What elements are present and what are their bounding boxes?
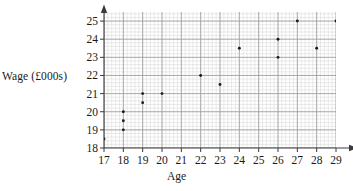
y-axis-tick-label: 25 (78, 15, 98, 27)
x-axis-tick-label: 17 (94, 154, 114, 166)
x-axis-tick-label: 23 (210, 154, 230, 166)
x-axis-tick-label: 21 (171, 154, 191, 166)
x-axis-tick-label: 28 (307, 154, 327, 166)
x-axis-tick-label: 29 (326, 154, 346, 166)
x-axis-tick-label: 25 (249, 154, 269, 166)
axes-layer (88, 4, 353, 160)
x-axis-tick-label: 20 (152, 154, 172, 166)
y-axis-tick-label: 19 (78, 124, 98, 136)
y-axis-tick-label: 22 (78, 69, 98, 81)
x-axis-tick-label: 22 (191, 154, 211, 166)
y-axis-tick-label: 23 (78, 51, 98, 63)
y-axis-tick-label: 20 (78, 106, 98, 118)
scatter-plot-figure: Wage (£000s) 1819202122232425 1718192021… (0, 0, 353, 191)
y-axis-tick-label: 24 (78, 33, 98, 45)
x-axis-tick-label: 18 (113, 154, 133, 166)
x-axis-tick-label: 19 (133, 154, 153, 166)
x-axis-tick-label: 27 (287, 154, 307, 166)
y-axis-tick-label: 18 (78, 142, 98, 154)
y-axis-tick-label: 21 (78, 88, 98, 100)
x-axis-tick-label: 24 (229, 154, 249, 166)
x-axis-tick-label: 26 (268, 154, 288, 166)
x-axis-title: Age (0, 170, 353, 183)
